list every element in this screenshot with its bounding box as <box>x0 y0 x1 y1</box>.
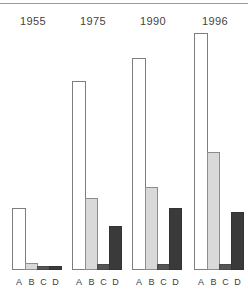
bar-1990-D[interactable] <box>169 208 182 270</box>
tick-label-row: ABCD <box>130 274 182 288</box>
bars-container <box>70 32 122 270</box>
bar-group-1996: 1996ABCD <box>186 10 244 298</box>
tick-label-A: A <box>73 277 86 288</box>
bar-1975-B[interactable] <box>85 198 98 270</box>
group-year-label: 1996 <box>186 15 244 27</box>
tick-label-D: D <box>231 277 244 288</box>
bar-group-1955: 1955ABCD <box>4 10 62 298</box>
group-year-label: 1990 <box>124 15 182 27</box>
tick-label-A: A <box>13 277 26 288</box>
bar-1996-B[interactable] <box>207 152 220 270</box>
bars-container <box>192 32 244 270</box>
tick-label-A: A <box>195 277 208 288</box>
tick-label-D: D <box>109 277 122 288</box>
bar-1996-A[interactable] <box>194 33 208 270</box>
bar-1996-D[interactable] <box>231 212 244 270</box>
group-year-label: 1955 <box>4 15 62 27</box>
bars-container <box>10 32 62 270</box>
bar-1955-D[interactable] <box>49 266 62 270</box>
group-year-label: 1975 <box>64 15 122 27</box>
top-border-rule <box>0 3 248 4</box>
chart-root: 1955ABCD1975ABCD1990ABCD1996ABCD <box>0 0 248 298</box>
plot-area: 1955ABCD1975ABCD1990ABCD1996ABCD <box>0 10 248 298</box>
bar-1975-A[interactable] <box>72 81 86 270</box>
bar-1955-A[interactable] <box>12 208 26 270</box>
bar-1990-B[interactable] <box>145 187 158 270</box>
bar-group-1975: 1975ABCD <box>64 10 122 298</box>
tick-label-row: ABCD <box>192 274 244 288</box>
tick-label-D: D <box>169 277 182 288</box>
tick-label-row: ABCD <box>10 274 62 288</box>
tick-label-row: ABCD <box>70 274 122 288</box>
bar-group-1990: 1990ABCD <box>124 10 182 298</box>
tick-label-A: A <box>133 277 146 288</box>
tick-label-D: D <box>49 277 62 288</box>
bar-1990-A[interactable] <box>132 58 146 270</box>
bar-1975-D[interactable] <box>109 226 122 270</box>
bars-container <box>130 32 182 270</box>
